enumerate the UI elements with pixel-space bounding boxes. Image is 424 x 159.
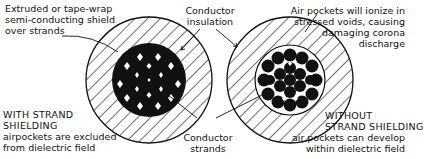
air-pockets-label: Air pockets will ionize in stressed void…: [291, 5, 405, 49]
strands-label-line1: Conductor: [178, 132, 238, 143]
air-pockets-label-line1: Air pockets will ionize in: [291, 5, 405, 16]
with-shielding-title2: SHIELDING: [3, 120, 116, 131]
insulation-label: Conductor insulation: [180, 5, 240, 27]
air-pockets-label-line4: discharge: [291, 38, 405, 49]
shield-label-line2: semi-conducting shield: [5, 14, 115, 25]
with-shielding-line1: airpockets are excluded: [3, 131, 116, 142]
air-pockets-label-line3: damaging corona: [291, 27, 405, 38]
air-pockets-label-line2: stressed voids, causing: [291, 16, 405, 27]
shield-label-line1: Extruded or tape-wrap: [5, 3, 115, 14]
without-shielding-line2: within dielectric field: [292, 143, 405, 154]
strands-label-line2: strands: [178, 143, 238, 154]
without-shielding-title2: STRAND SHIELDING: [322, 121, 424, 132]
insulation-label-line1: Conductor: [180, 5, 240, 16]
without-shielding-label: WITHOUT STRAND SHIELDING: [322, 110, 424, 132]
shield-label: Extruded or tape-wrap semi-conducting sh…: [5, 3, 115, 36]
without-shielding-line1: air pockets can develop: [292, 132, 405, 143]
with-shielding-title1: WITH STRAND: [3, 109, 116, 120]
without-shielding-title1: WITHOUT: [322, 110, 424, 121]
with-shielding-label: WITH STRAND SHIELDING airpockets are exc…: [3, 109, 116, 153]
insulation-label-line2: insulation: [180, 16, 240, 27]
with-shielding-line2: from dielectric field: [3, 142, 116, 153]
strands-label: Conductor strands: [178, 132, 238, 154]
shield-label-line3: over strands: [5, 25, 115, 36]
without-shielding-desc: air pockets can develop within dielectri…: [292, 132, 405, 154]
